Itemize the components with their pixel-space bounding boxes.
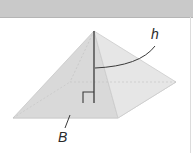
pyramid-diagram: h B bbox=[0, 0, 193, 153]
height-label: h bbox=[151, 26, 159, 42]
base-label: B bbox=[58, 129, 67, 145]
